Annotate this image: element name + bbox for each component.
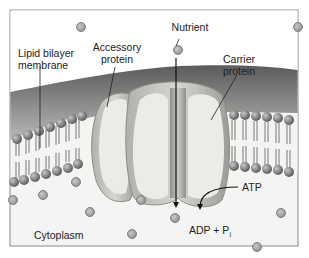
- label-adp-subscript: i: [229, 231, 231, 238]
- label-nutrient: Nutrient: [168, 21, 212, 33]
- label-lipid-bilayer-line1: Lipid bilayer: [18, 47, 68, 59]
- label-atp: ATP: [242, 181, 262, 193]
- label-carrier-line2: protein: [214, 65, 264, 77]
- label-accessory-protein: Accessory protein: [90, 41, 144, 65]
- label-accessory-line2: protein: [90, 53, 144, 65]
- label-carrier-protein: Carrier protein: [214, 53, 264, 77]
- lipid-bilayer-right: [223, 110, 297, 177]
- label-adp-pi: ADP + Pi: [189, 224, 231, 241]
- label-adp-text: ADP + P: [189, 224, 229, 236]
- label-lipid-bilayer-line2: membrane: [18, 59, 68, 71]
- label-cytoplasm: Cytoplasm: [34, 229, 84, 241]
- label-accessory-line1: Accessory: [90, 41, 144, 53]
- label-lipid-bilayer: Lipid bilayer membrane: [18, 47, 68, 71]
- carrier-protein: [126, 82, 230, 207]
- transport-diagram: [0, 0, 309, 258]
- label-carrier-line1: Carrier: [214, 53, 264, 65]
